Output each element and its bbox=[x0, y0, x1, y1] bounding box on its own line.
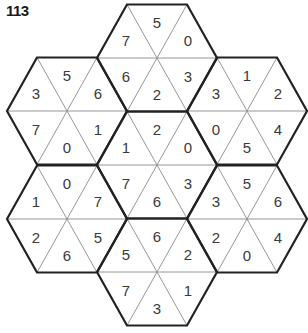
cell-right-upper-bottom: 5 bbox=[243, 139, 251, 156]
cell-right-upper-top: 1 bbox=[243, 67, 251, 84]
cell-left-upper-upper-left: 3 bbox=[32, 85, 40, 102]
cell-top-bottom: 2 bbox=[153, 86, 161, 103]
cell-left-lower-lower-right: 5 bbox=[94, 229, 102, 246]
cell-left-lower-lower-left: 2 bbox=[32, 229, 40, 246]
cell-center-lower-left: 7 bbox=[122, 175, 130, 192]
cell-top-top: 5 bbox=[153, 14, 161, 31]
cell-center-upper-left: 1 bbox=[122, 139, 130, 156]
cell-left-lower-upper-right: 7 bbox=[94, 193, 102, 210]
cell-center-bottom: 6 bbox=[153, 193, 161, 210]
cell-left-lower-top: 0 bbox=[63, 175, 71, 192]
cell-right-lower-upper-left: 3 bbox=[212, 193, 220, 210]
cell-right-upper-upper-right: 2 bbox=[274, 85, 282, 102]
cell-bottom-upper-left: 5 bbox=[122, 246, 130, 263]
cell-top-lower-left: 6 bbox=[122, 68, 130, 85]
cell-right-lower-top: 5 bbox=[243, 175, 251, 192]
hex-puzzle-board: 5706325367101320452107360172565362406527… bbox=[0, 0, 308, 333]
cell-right-lower-lower-right: 4 bbox=[274, 229, 282, 246]
cell-center-upper-right: 0 bbox=[184, 139, 192, 156]
cell-left-upper-upper-right: 6 bbox=[94, 85, 102, 102]
cell-right-lower-upper-right: 6 bbox=[274, 193, 282, 210]
cell-right-upper-upper-left: 3 bbox=[212, 85, 220, 102]
cell-left-lower-upper-left: 1 bbox=[32, 193, 40, 210]
cell-left-upper-top: 5 bbox=[63, 67, 71, 84]
cell-top-upper-left: 7 bbox=[122, 32, 130, 49]
cell-left-lower-bottom: 6 bbox=[63, 247, 71, 264]
cell-right-lower-lower-left: 2 bbox=[212, 229, 220, 246]
cell-right-upper-lower-left: 0 bbox=[212, 121, 220, 138]
cell-top-lower-right: 3 bbox=[184, 68, 192, 85]
cell-top-upper-right: 0 bbox=[184, 32, 192, 49]
cell-bottom-bottom: 3 bbox=[153, 300, 161, 317]
cell-left-upper-lower-right: 1 bbox=[94, 121, 102, 138]
cell-bottom-lower-right: 1 bbox=[184, 282, 192, 299]
cell-left-upper-lower-left: 7 bbox=[32, 121, 40, 138]
cell-bottom-lower-left: 7 bbox=[122, 282, 130, 299]
cell-center-top: 2 bbox=[153, 121, 161, 138]
cell-right-lower-bottom: 0 bbox=[243, 247, 251, 264]
cell-right-upper-lower-right: 4 bbox=[274, 121, 282, 138]
cell-bottom-upper-right: 2 bbox=[184, 246, 192, 263]
cell-left-upper-bottom: 0 bbox=[63, 139, 71, 156]
cell-center-lower-right: 3 bbox=[184, 175, 192, 192]
cell-bottom-top: 6 bbox=[153, 228, 161, 245]
